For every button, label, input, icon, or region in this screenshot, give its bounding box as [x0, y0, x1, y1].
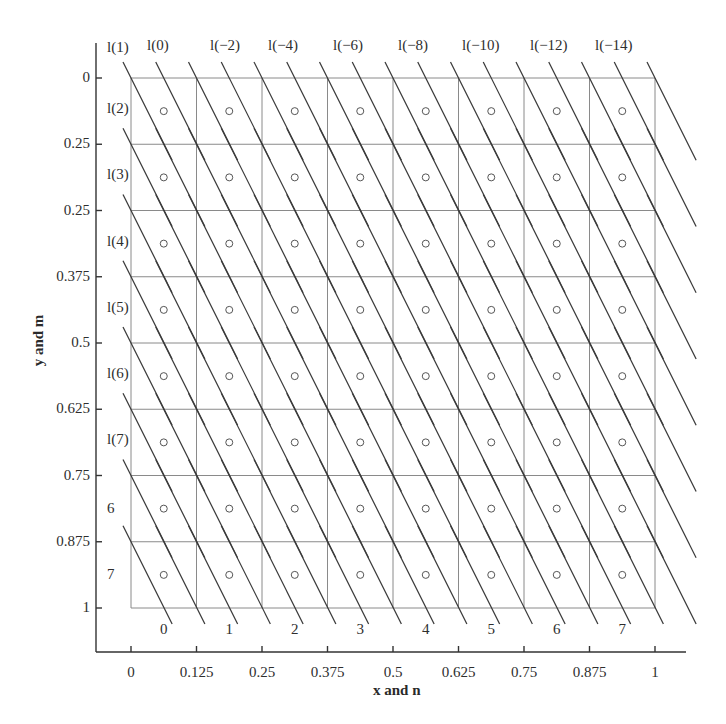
cell-marker-circle — [553, 306, 560, 313]
cell-marker-circle — [357, 240, 364, 247]
cell-marker-circle — [357, 373, 364, 380]
diagonal-line — [647, 393, 696, 491]
diagonal-line — [189, 526, 238, 624]
cell-marker-circle — [488, 373, 495, 380]
cell-marker-circle — [226, 439, 233, 446]
x-tick-label: 0.875 — [560, 665, 620, 680]
cell-marker-circle — [619, 240, 626, 247]
cell-marker-circle — [226, 108, 233, 115]
cell-marker-circle — [422, 306, 429, 313]
cell-marker-circle — [226, 571, 233, 578]
x-tick-label: 0.5 — [363, 665, 423, 680]
cell-marker-circle — [553, 373, 560, 380]
cell-marker-circle — [160, 571, 167, 578]
top-line-label: l(−14) — [595, 38, 633, 53]
diagonal-line — [483, 526, 532, 624]
top-line-label: l(−12) — [530, 38, 568, 53]
diagonal-line — [221, 526, 270, 624]
cell-marker-circle — [291, 306, 298, 313]
row-label: 7 — [107, 567, 115, 582]
diagonal-line — [647, 460, 696, 558]
row-label: l(5) — [107, 300, 129, 315]
cell-marker-circle — [291, 505, 298, 512]
diagonal-line — [123, 526, 172, 624]
cell-marker-circle — [488, 108, 495, 115]
cell-marker-circle — [160, 108, 167, 115]
cell-marker-circle — [619, 571, 626, 578]
diagonal-line — [385, 526, 434, 624]
cell-marker-circle — [160, 174, 167, 181]
row-label: l(2) — [107, 101, 129, 116]
diagonal-line — [287, 526, 336, 624]
cell-marker-circle — [226, 373, 233, 380]
column-index-label: 3 — [330, 622, 390, 637]
row-label: l(6) — [107, 366, 129, 381]
x-tick-label: 0.125 — [167, 665, 227, 680]
cell-marker-circle — [553, 571, 560, 578]
row-label: 6 — [107, 501, 115, 516]
cell-marker-circle — [226, 306, 233, 313]
x-tick-label: 0.375 — [298, 665, 358, 680]
cell-marker-circle — [553, 439, 560, 446]
diagonal-line — [647, 327, 696, 425]
cell-marker-circle — [488, 505, 495, 512]
cell-marker-circle — [422, 240, 429, 247]
cell-marker-circle — [160, 373, 167, 380]
cell-marker-circle — [619, 108, 626, 115]
cell-marker-circle — [422, 373, 429, 380]
top-line-label: l(0) — [147, 38, 169, 53]
column-index-label: 1 — [199, 622, 259, 637]
cell-marker-circle — [488, 174, 495, 181]
row-label: l(3) — [107, 167, 129, 182]
cell-marker-circle — [291, 571, 298, 578]
top-line-label: l(−10) — [462, 38, 500, 53]
y-tick-label: 0.375 — [30, 269, 90, 284]
row-label: l(7) — [107, 432, 129, 447]
diagonal-line — [418, 526, 467, 624]
row-label: l(4) — [107, 234, 129, 249]
column-index-label: 6 — [527, 622, 587, 637]
cell-marker-circle — [291, 373, 298, 380]
y-tick-label: 1 — [30, 600, 90, 615]
x-tick-label: 0.625 — [429, 665, 489, 680]
diagonal-line — [156, 526, 205, 624]
diagonal-line — [549, 526, 598, 624]
cell-marker-circle — [488, 439, 495, 446]
column-index-label: 4 — [396, 622, 456, 637]
cell-marker-circle — [422, 505, 429, 512]
axes — [96, 43, 686, 652]
y-axis-title: y and m — [30, 311, 47, 371]
y-tick-label: 0.75 — [30, 468, 90, 483]
cell-marker-circle — [160, 306, 167, 313]
cell-marker-circle — [357, 174, 364, 181]
cell-marker-circle — [488, 240, 495, 247]
cell-marker-circle — [488, 306, 495, 313]
cell-marker-circle — [357, 108, 364, 115]
cell-marker-circle — [291, 174, 298, 181]
x-tick-label: 0.75 — [494, 665, 554, 680]
x-tick-label: 0 — [101, 665, 161, 680]
cell-marker-circle — [422, 571, 429, 578]
y-tick-label: 0.25 — [30, 203, 90, 218]
column-index-label: 0 — [134, 622, 194, 637]
cell-marker-circle — [357, 571, 364, 578]
cell-marker-circle — [553, 505, 560, 512]
cell-marker-circle — [357, 439, 364, 446]
y-tick-label: 0.25 — [30, 136, 90, 151]
cell-marker-circle — [422, 439, 429, 446]
top-line-label: l(−6) — [333, 38, 363, 53]
cell-marker-circle — [226, 505, 233, 512]
column-index-label: 2 — [265, 622, 325, 637]
cell-marker-circle — [488, 571, 495, 578]
x-tick-label: 1 — [625, 665, 685, 680]
cell-marker-circle — [291, 240, 298, 247]
cell-marker-circle — [160, 439, 167, 446]
diagonal-line — [582, 526, 631, 624]
cell-marker-circle — [422, 108, 429, 115]
diagonal-line — [516, 526, 565, 624]
diagonal-line — [647, 261, 696, 359]
cell-marker-circle — [553, 174, 560, 181]
diagonal-line — [647, 128, 696, 226]
cell-marker-circle — [553, 108, 560, 115]
x-axis-title: x and n — [373, 682, 421, 699]
